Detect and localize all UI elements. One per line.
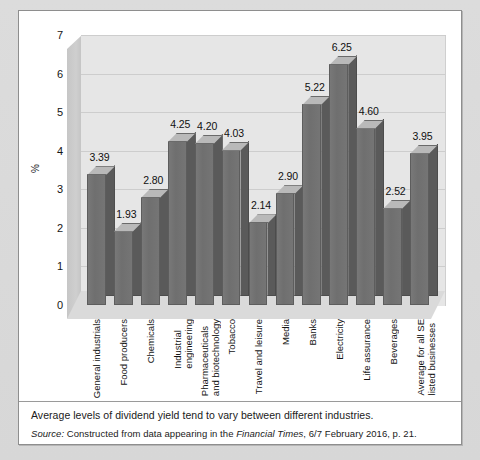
category-label-12: Beverages bbox=[388, 319, 399, 364]
y-axis-ticks: 76543210 bbox=[39, 33, 65, 319]
bar-front-face bbox=[410, 153, 429, 305]
bar-front-face bbox=[276, 193, 295, 305]
category-label-line: listed businesses bbox=[426, 319, 437, 395]
category-label-line: Industrial bbox=[172, 319, 183, 369]
x-axis-category-labels: General industrialsFood producersChemica… bbox=[67, 319, 457, 399]
page-body-text-fragment bbox=[22, 450, 462, 460]
plot-area: 3.391.932.804.254.204.032.142.905.226.25… bbox=[67, 35, 445, 319]
bar-1 bbox=[87, 174, 106, 305]
bar-front-face bbox=[141, 197, 160, 305]
category-label-line: Pharmaceuticals bbox=[199, 319, 210, 396]
bar-front-face bbox=[114, 231, 133, 305]
bar-value-label-13: 3.95 bbox=[404, 130, 441, 142]
category-label-3: Chemicals bbox=[145, 319, 156, 363]
category-label-line: Chemicals bbox=[145, 319, 156, 363]
category-label-line: Travel and leisure bbox=[253, 319, 264, 394]
bar-value-label-7: 2.14 bbox=[243, 199, 280, 211]
y-tick-6: 6 bbox=[57, 69, 63, 79]
y-tick-4: 4 bbox=[57, 146, 63, 156]
category-label-line: General industrials bbox=[91, 319, 102, 398]
bar-front-face bbox=[195, 143, 214, 305]
bar-2 bbox=[114, 231, 133, 305]
figure-caption: Average levels of dividend yield tend to… bbox=[19, 401, 461, 439]
bar-value-label-9: 5.22 bbox=[296, 81, 333, 93]
bar-6 bbox=[222, 150, 241, 305]
category-label-line: Life assurance bbox=[361, 319, 372, 381]
category-label-line: engineering bbox=[183, 319, 194, 369]
bar-value-label-2: 1.93 bbox=[108, 208, 145, 220]
category-label-line: Food producers bbox=[118, 319, 129, 386]
bar-side-face bbox=[429, 144, 438, 296]
category-label-6: Tobacco bbox=[226, 319, 237, 354]
bar-value-label-11: 4.60 bbox=[350, 105, 387, 117]
category-label-8: Media bbox=[280, 319, 291, 345]
bar-front-face bbox=[356, 128, 375, 305]
bar-front-face bbox=[302, 104, 321, 305]
bar-10 bbox=[329, 64, 348, 305]
bar-value-label-12: 2.52 bbox=[377, 185, 414, 197]
bar-front-face bbox=[87, 174, 106, 305]
category-label-5: Pharmaceuticalsand biotechnology bbox=[199, 319, 221, 396]
y-tick-0: 0 bbox=[57, 300, 63, 310]
caption-source: Source: Constructed from data appearing … bbox=[31, 428, 449, 439]
source-text-a: Constructed from data appearing in the bbox=[67, 428, 234, 439]
y-tick-1: 1 bbox=[57, 261, 63, 271]
bar-12 bbox=[383, 208, 402, 305]
bar-value-label-1: 3.39 bbox=[81, 151, 118, 163]
y-tick-5: 5 bbox=[57, 107, 63, 117]
bar-4 bbox=[168, 141, 187, 305]
chart-figure: % 76543210 3.391.932.804.254.204.032.142… bbox=[19, 11, 461, 399]
category-label-line: Average for all SE bbox=[415, 319, 426, 395]
bar-7 bbox=[249, 222, 268, 305]
bar-front-face bbox=[329, 64, 348, 305]
source-prefix: Source: bbox=[31, 428, 64, 439]
category-label-1: General industrials bbox=[91, 319, 102, 398]
category-label-line: Tobacco bbox=[226, 319, 237, 354]
category-label-11: Life assurance bbox=[361, 319, 372, 381]
category-label-7: Travel and leisure bbox=[253, 319, 264, 394]
bar-9 bbox=[302, 104, 321, 305]
bar-value-label-10: 6.25 bbox=[323, 41, 360, 53]
bar-11 bbox=[356, 128, 375, 305]
category-label-line: Banks bbox=[307, 319, 318, 345]
source-text-b: , 6/7 February 2016, p. 21. bbox=[303, 428, 416, 439]
category-label-10: Electricity bbox=[334, 319, 345, 360]
bar-value-label-8: 2.90 bbox=[270, 170, 307, 182]
bar-front-face bbox=[249, 222, 268, 305]
bar-value-label-3: 2.80 bbox=[135, 174, 172, 186]
source-publication: Financial Times bbox=[236, 428, 303, 439]
category-label-9: Banks bbox=[307, 319, 318, 345]
category-label-line: Media bbox=[280, 319, 291, 345]
y-tick-2: 2 bbox=[57, 223, 63, 233]
bar-series: 3.391.932.804.254.204.032.142.905.226.25… bbox=[67, 35, 445, 319]
bar-front-face bbox=[383, 208, 402, 305]
bar-3 bbox=[141, 197, 160, 305]
category-label-line: Beverages bbox=[388, 319, 399, 364]
category-label-line: Electricity bbox=[334, 319, 345, 360]
scanned-page: % 76543210 3.391.932.804.254.204.032.142… bbox=[0, 0, 480, 460]
bar-13 bbox=[410, 153, 429, 305]
y-tick-7: 7 bbox=[57, 30, 63, 40]
category-label-13: Average for all SElisted businesses bbox=[415, 319, 437, 395]
bar-front-face bbox=[168, 141, 187, 305]
bar-5 bbox=[195, 143, 214, 305]
category-label-line: and biotechnology bbox=[210, 319, 221, 396]
bar-value-label-6: 4.03 bbox=[216, 127, 253, 139]
category-label-2: Food producers bbox=[118, 319, 129, 386]
bar-front-face bbox=[222, 150, 241, 305]
caption-description: Average levels of dividend yield tend to… bbox=[31, 409, 449, 421]
category-label-4: Industrialengineering bbox=[172, 319, 194, 369]
figure-panel: % 76543210 3.391.932.804.254.204.032.142… bbox=[18, 10, 462, 445]
bar-8 bbox=[276, 193, 295, 305]
y-tick-3: 3 bbox=[57, 184, 63, 194]
